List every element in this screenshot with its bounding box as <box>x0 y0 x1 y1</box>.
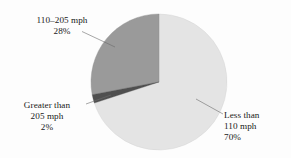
pie-label-110-to-205-range: 110–205 mph <box>26 15 98 26</box>
pie-label-greater-than-205-percent: 2% <box>7 122 87 133</box>
pie-label-110-to-205-percent: 28% <box>26 26 98 37</box>
pie-label-greater-than-205-line2: 205 mph <box>7 111 87 122</box>
pie-label-less-than-110: Less than 110 mph 70% <box>224 110 288 144</box>
pie-slices <box>91 14 227 150</box>
pie-label-greater-than-205-line1: Greater than <box>7 100 87 111</box>
pie-label-less-than-110-line2: 110 mph <box>224 121 288 132</box>
pie-label-less-than-110-percent: 70% <box>224 132 288 143</box>
pie-chart-figure: 746 110–205 mph 28% Greater than 205 mph… <box>0 0 291 158</box>
pie-label-less-than-110-line1: Less than <box>224 110 288 121</box>
pie-label-110-to-205: 110–205 mph 28% <box>26 15 98 37</box>
pie-label-greater-than-205: Greater than 205 mph 2% <box>7 100 87 134</box>
pie-slice-110-to-205[interactable] <box>91 14 159 95</box>
